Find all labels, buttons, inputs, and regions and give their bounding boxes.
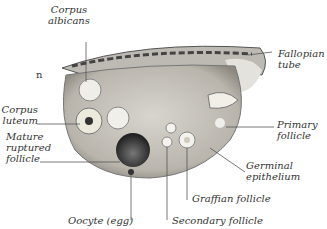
ovary-illustration — [0, 0, 327, 229]
label-mature-ruptured-follicle: Mature ruptured follicle — [6, 131, 51, 164]
label-secondary-follicle: Secondary follicle — [172, 215, 263, 226]
label-primary-follicle: Primary follicle — [277, 119, 318, 141]
label-graffian-follicle: Graffian follicle — [192, 193, 271, 204]
label-germinal-epithelium: Germinal epithelium — [246, 160, 300, 182]
label-corpus-albicans: Corpus albicans — [44, 4, 94, 26]
label-oocyte: Oocyte (egg) — [68, 215, 133, 226]
label-corpus-luteum: Corpus luteum — [0, 104, 38, 126]
mature-ruptured-follicle — [116, 133, 150, 167]
fragment-text: n — [36, 69, 42, 80]
label-fallopian-tube: Fallopian tube — [278, 48, 325, 70]
